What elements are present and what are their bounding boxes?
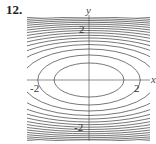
y-tick-2: 2 (79, 23, 85, 35)
y-tick-neg2: -2 (74, 121, 83, 133)
x-axis-label: x (150, 73, 156, 85)
x-tick-2: 2 (134, 82, 140, 94)
x-tick-neg2: -2 (30, 82, 39, 94)
y-axis-label: y (85, 4, 91, 16)
contour-plot: x y -2 2 2 -2 (0, 0, 156, 144)
